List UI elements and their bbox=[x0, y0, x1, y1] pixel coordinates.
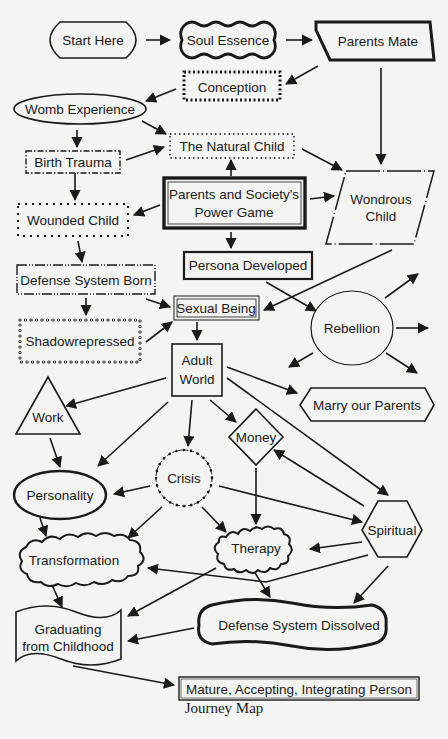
node-crisis: Crisis bbox=[156, 450, 212, 506]
node-label: Crisis bbox=[167, 471, 201, 486]
edge-adult-marry bbox=[227, 367, 297, 393]
node-label: Personality bbox=[27, 488, 94, 503]
edge-power-wondrous bbox=[310, 196, 334, 199]
node-power-game: Parents and Society's Power Game bbox=[164, 178, 305, 228]
node-label: Parents Mate bbox=[338, 34, 418, 49]
node-label: Birth Trauma bbox=[34, 155, 112, 170]
diagram-caption: Journey Map bbox=[0, 700, 448, 717]
edge-rebellion-se bbox=[386, 353, 417, 373]
edge-birth-natural bbox=[126, 147, 164, 160]
edge-personality-transformation bbox=[40, 518, 46, 536]
edge-wounded-defense bbox=[78, 241, 82, 262]
node-marry-our-parents: Marry our Parents bbox=[300, 388, 434, 421]
node-label: Mature, Accepting, Integrating Person bbox=[186, 682, 412, 697]
node-sexual-being: Sexual Being bbox=[174, 296, 259, 320]
edge-crisis-personality bbox=[114, 486, 150, 494]
edge-adult-personality bbox=[98, 402, 168, 466]
node-label-line2: from Childhood bbox=[22, 639, 114, 654]
node-label: Soul Essence bbox=[187, 33, 270, 48]
node-start-here: Start Here bbox=[50, 22, 136, 58]
node-rebellion: Rebellion bbox=[311, 291, 393, 365]
node-label: Spiritual bbox=[368, 523, 417, 538]
node-label: Defense System Born bbox=[20, 273, 151, 288]
node-womb-experience: Womb Experience bbox=[14, 94, 146, 124]
edge-womb-natural bbox=[142, 121, 166, 134]
node-label: Rebellion bbox=[324, 321, 380, 336]
node-mature-person: Mature, Accepting, Integrating Person bbox=[179, 677, 419, 700]
node-label-line2: Child bbox=[366, 209, 397, 224]
node-money: Money bbox=[229, 409, 283, 465]
node-label-line1: Graduating bbox=[35, 622, 102, 637]
node-graduating: Graduating from Childhood bbox=[16, 606, 121, 665]
node-label-line1: Parents and Society's bbox=[169, 187, 299, 202]
edge-graduating-mature bbox=[73, 666, 174, 685]
edge-rebellion-ne bbox=[385, 274, 418, 298]
edge-spiritual-dissolved bbox=[354, 566, 388, 603]
edge-work-personality bbox=[50, 438, 60, 467]
edge-spiritual-money bbox=[274, 450, 364, 506]
edge-persona-rebellion bbox=[266, 282, 316, 311]
node-defense-system-born: Defense System Born bbox=[17, 265, 155, 294]
node-persona-developed: Persona Developed bbox=[184, 252, 312, 279]
node-wounded-child: Wounded Child bbox=[18, 204, 128, 236]
node-adult-world: Adult World bbox=[172, 344, 222, 396]
edge-spiritual-therapy bbox=[310, 542, 362, 549]
edge-power-wounded bbox=[134, 205, 160, 215]
edge-transformation-graduating bbox=[52, 585, 62, 607]
node-label: Wounded Child bbox=[27, 213, 119, 228]
node-label-line2: Power Game bbox=[195, 205, 274, 220]
node-defense-system-dissolved: Defense System Dissolved bbox=[199, 599, 387, 649]
node-label: Start Here bbox=[62, 33, 124, 48]
node-label: The Natural Child bbox=[179, 139, 284, 154]
node-label: Therapy bbox=[231, 541, 281, 556]
node-spiritual: Spiritual bbox=[362, 501, 422, 557]
edge-parents-conception bbox=[286, 66, 318, 84]
node-label: Work bbox=[32, 410, 64, 425]
node-label: Transformation bbox=[29, 553, 119, 568]
node-label: Marry our Parents bbox=[313, 398, 421, 413]
node-parents-mate: Parents Mate bbox=[316, 22, 434, 60]
node-label-line1: Adult bbox=[182, 353, 213, 368]
edge-dissolved-graduating bbox=[128, 628, 194, 641]
journey-map-diagram: Start Here Soul Essence Parents Mate Con… bbox=[0, 0, 448, 739]
node-label-line1: Wondrous bbox=[350, 192, 412, 207]
node-label-line2: World bbox=[179, 372, 214, 387]
edge-adult-money bbox=[210, 400, 236, 422]
edge-crisis-therapy bbox=[202, 507, 226, 532]
edge-rebellion-sw bbox=[289, 353, 313, 367]
edge-adult-work bbox=[66, 378, 166, 406]
node-label: Conception bbox=[198, 80, 266, 95]
edge-conception-womb bbox=[146, 89, 176, 101]
node-soul-essence: Soul Essence bbox=[181, 22, 276, 58]
node-birth-trauma: Birth Trauma bbox=[26, 151, 120, 173]
edge-defense-sexual bbox=[146, 299, 170, 307]
node-therapy: Therapy bbox=[215, 527, 292, 574]
node-personality: Personality bbox=[14, 471, 106, 519]
edge-crisis-transformation bbox=[128, 507, 162, 538]
node-conception: Conception bbox=[184, 72, 280, 100]
edge-shadow-sexual bbox=[146, 322, 172, 342]
edge-adult-crisis bbox=[188, 400, 192, 446]
edge-natural-wondrous bbox=[302, 149, 342, 170]
node-shadowrepressed: Shadowrepressed bbox=[20, 320, 140, 362]
node-label: Defense System Dissolved bbox=[218, 618, 379, 633]
node-transformation: Transformation bbox=[20, 533, 144, 586]
node-wondrous-child: Wondrous Child bbox=[326, 171, 434, 244]
node-label: Shadowrepressed bbox=[26, 334, 135, 349]
node-label: Sexual Being bbox=[176, 301, 256, 316]
node-label: Womb Experience bbox=[25, 102, 135, 117]
node-natural-child: The Natural Child bbox=[170, 134, 294, 158]
node-label: Money bbox=[236, 430, 277, 445]
node-label: Persona Developed bbox=[189, 258, 308, 273]
